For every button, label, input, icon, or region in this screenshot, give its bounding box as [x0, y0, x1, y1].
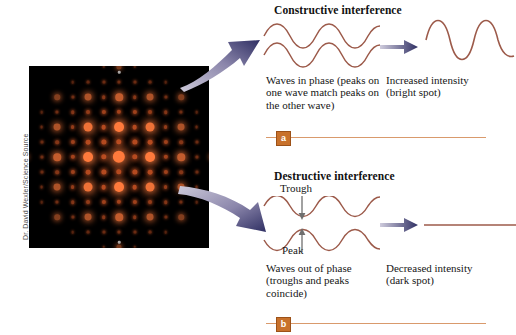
equals-arrow-a — [380, 40, 418, 54]
diffraction-spot — [163, 140, 167, 144]
diffraction-spot — [179, 170, 183, 174]
diffraction-spot — [55, 110, 58, 113]
diffraction-spot — [40, 111, 43, 114]
diffraction-spot — [54, 124, 61, 131]
diffraction-spot — [132, 154, 137, 159]
diffraction-spot — [86, 170, 91, 175]
diffraction-spot — [178, 124, 185, 131]
diffraction-spot — [84, 183, 93, 192]
diffraction-spot — [101, 110, 105, 114]
diffraction-spot — [115, 213, 123, 221]
panel-constructive-interference: Constructive interference Waves in phase… — [252, 4, 488, 148]
diffraction-spot — [117, 200, 121, 204]
diffraction-spot — [164, 95, 167, 98]
diffraction-spot — [113, 151, 125, 163]
in-phase-waves-diagram — [262, 22, 382, 70]
diffraction-spot — [55, 140, 59, 144]
diffraction-spot — [148, 200, 152, 204]
diffraction-spot — [71, 200, 75, 204]
diffraction-spot — [132, 139, 137, 144]
panel-b-badge: b — [276, 317, 291, 332]
diffraction-spot — [132, 200, 136, 204]
diffraction-spot — [86, 140, 91, 145]
diffraction-spot — [132, 110, 136, 114]
diffraction-spot — [54, 184, 61, 191]
diffraction-spot — [116, 169, 121, 174]
diffraction-spot — [87, 81, 90, 84]
diffraction-spot — [177, 153, 185, 161]
beam-marker — [118, 71, 121, 74]
resultant-flat-line-destructive — [424, 218, 516, 232]
diffraction-spot — [101, 154, 106, 159]
diffraction-spot — [71, 185, 75, 189]
out-of-phase-waves-diagram — [262, 196, 382, 258]
diffraction-spot — [115, 93, 123, 101]
diffraction-spot — [195, 155, 198, 158]
diffraction-spot — [145, 152, 155, 162]
diffraction-spot — [71, 125, 75, 129]
diffraction-spot — [195, 140, 198, 143]
diffraction-spot — [195, 111, 198, 114]
diffraction-spot — [70, 140, 74, 144]
panel-a-heading: Constructive interference — [274, 4, 488, 16]
panel-a-captions: Waves in phase (peaks on one wave match … — [252, 74, 488, 122]
panel-b-heading: Destructive interference — [274, 170, 488, 182]
diffraction-spot — [163, 155, 167, 159]
diffraction-spot — [116, 139, 121, 144]
diffraction-spot — [132, 125, 137, 130]
diffraction-spot — [86, 200, 90, 204]
resultant-wave-constructive — [424, 18, 516, 70]
diffraction-spot — [101, 200, 105, 204]
diffraction-spot — [164, 81, 167, 84]
diffraction-spot — [83, 152, 93, 162]
diffraction-spot — [147, 214, 154, 221]
trough-label: Trough — [280, 182, 312, 194]
diffraction-spot — [85, 94, 92, 101]
panel-destructive-interference: Destructive interference Trough Peak — [252, 170, 488, 334]
panel-b-caption-right: Decreased intensity (dark spot) — [386, 262, 491, 287]
panel-b-captions: Waves out of phase (troughs and peaks co… — [252, 262, 488, 310]
diffraction-spot — [179, 110, 182, 113]
diffraction-spot — [164, 125, 168, 129]
diffraction-spot — [71, 81, 74, 84]
diffraction-spot — [133, 95, 137, 99]
diffraction-spot — [102, 246, 104, 248]
diffraction-spot — [117, 80, 120, 83]
diffraction-spot — [132, 185, 137, 190]
diffraction-spot — [114, 182, 124, 192]
panel-a-badge: a — [276, 131, 291, 146]
diffraction-spot — [40, 170, 43, 173]
diffraction-spot — [133, 215, 137, 219]
diffraction-spot — [53, 153, 61, 161]
diffraction-spot — [70, 170, 74, 174]
diffraction-spot — [148, 170, 153, 175]
diffraction-spot — [116, 244, 121, 248]
diffraction-spot — [164, 110, 168, 114]
diffraction-spot — [87, 231, 90, 234]
diffraction-spot — [71, 231, 74, 234]
diffraction-spot — [133, 66, 135, 68]
peak-label: Peak — [282, 244, 303, 256]
panel-b-wave-row: Trough Peak — [252, 182, 488, 260]
diffraction-spot — [71, 215, 74, 218]
diffraction-spot — [147, 94, 154, 101]
diffraction-spot — [163, 170, 167, 174]
diffraction-spot — [70, 155, 74, 159]
diffraction-spot — [148, 140, 153, 145]
diffraction-spot — [55, 200, 58, 203]
diffraction-spot — [117, 230, 120, 233]
panel-a-wave-row — [252, 16, 488, 72]
diffraction-spot — [164, 200, 168, 204]
panel-a-caption-left: Waves in phase (peaks on one wave match … — [266, 74, 386, 111]
diffraction-spot — [117, 110, 121, 114]
diffraction-spot — [133, 80, 136, 83]
diffraction-spot — [116, 66, 121, 70]
diffraction-spot — [102, 95, 106, 99]
diffraction-spot — [102, 66, 104, 68]
diffraction-spot — [40, 201, 43, 204]
diffraction-spot — [40, 140, 43, 143]
diffraction-spot — [164, 231, 167, 234]
diffraction-spot — [132, 169, 137, 174]
panel-a-rule — [266, 137, 486, 138]
diffraction-spot — [133, 230, 136, 233]
